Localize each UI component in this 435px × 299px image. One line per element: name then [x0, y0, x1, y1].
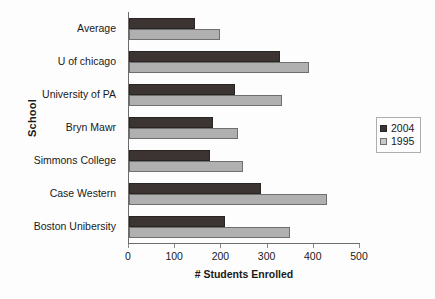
legend-label: 1995	[391, 136, 414, 147]
bar-2004	[129, 84, 235, 95]
bar-group	[129, 51, 360, 73]
x-axis-tick	[313, 244, 314, 248]
x-axis-tick-label: 400	[293, 250, 333, 262]
bar-2004	[129, 117, 213, 128]
x-axis-tick	[220, 244, 221, 248]
bar-1995	[129, 227, 290, 238]
category-label: U of chicago	[4, 56, 116, 67]
plot-area	[128, 12, 359, 244]
x-axis-tick-label: 300	[247, 250, 287, 262]
category-label: University of PA	[4, 89, 116, 100]
x-axis-tick-label: 100	[154, 250, 194, 262]
category-label: Average	[4, 23, 116, 34]
bar-group	[129, 216, 360, 238]
legend-swatch-1995-icon	[380, 138, 387, 145]
x-axis-tick	[128, 244, 129, 248]
category-label: Simmons College	[4, 155, 116, 166]
x-axis-line	[128, 243, 360, 244]
bar-1995	[129, 95, 282, 106]
x-axis-tick-label: 500	[339, 250, 379, 262]
bar-group	[129, 18, 360, 40]
category-label: Case Western	[4, 188, 116, 199]
bar-group	[129, 84, 360, 106]
bar-2004	[129, 216, 225, 227]
x-axis-tick	[267, 244, 268, 248]
bar-2004	[129, 51, 280, 62]
bar-group	[129, 183, 360, 205]
bar-2004	[129, 183, 261, 194]
legend: 2004 1995	[376, 117, 421, 153]
bar-2004	[129, 150, 210, 161]
legend-item: 1995	[380, 135, 417, 148]
legend-item: 2004	[380, 122, 417, 135]
bar-2004	[129, 18, 195, 29]
category-axis-labels: AverageU of chicagoUniversity of PABryn …	[8, 12, 122, 244]
x-axis-tick-label: 0	[108, 250, 148, 262]
bar-1995	[129, 194, 327, 205]
legend-swatch-2004-icon	[380, 125, 387, 132]
bar-1995	[129, 62, 309, 73]
bar-1995	[129, 29, 220, 40]
x-axis-tick	[359, 244, 360, 248]
legend-label: 2004	[391, 123, 414, 134]
category-label: Boston Unibersity	[4, 221, 116, 232]
bar-chart: School AverageU of chicagoUniversity of …	[0, 0, 435, 299]
bar-group	[129, 150, 360, 172]
x-axis-tick	[174, 244, 175, 248]
x-axis-tick-label: 200	[200, 250, 240, 262]
bar-1995	[129, 161, 243, 172]
x-axis-title: # Students Enrolled	[128, 268, 360, 280]
bar-group	[129, 117, 360, 139]
category-label: Bryn Mawr	[4, 122, 116, 133]
bar-1995	[129, 128, 238, 139]
